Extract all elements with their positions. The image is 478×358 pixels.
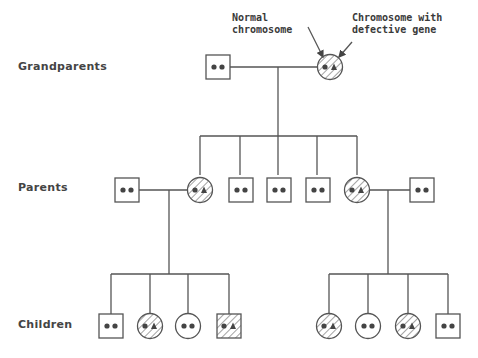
parent-spouse-left-square (115, 178, 139, 202)
child-left-1-square (99, 314, 123, 338)
pedigree-graphic (0, 0, 478, 358)
grandfather-square (206, 55, 230, 79)
parent-son-3-square (267, 178, 291, 202)
child-right-1-circle-carrier (317, 314, 342, 339)
connector-lines (111, 27, 448, 314)
pedigree-diagram: Grandparents Parents Children Normal chr… (0, 0, 478, 358)
child-right-3-circle-carrier (396, 314, 421, 339)
child-left-3-circle (176, 314, 201, 339)
child-left-2-circle-carrier (138, 314, 163, 339)
child-left-4-square-affected (217, 314, 241, 338)
parent-daughter-1-carrier (188, 178, 213, 203)
parent-son-2-square (229, 178, 253, 202)
parent-son-4-square (306, 178, 330, 202)
parent-spouse-right-square (410, 178, 434, 202)
grandmother-circle-carrier (318, 55, 343, 80)
child-right-4-square (436, 314, 460, 338)
child-right-2-circle (356, 314, 381, 339)
parent-daughter-5-carrier (345, 178, 370, 203)
